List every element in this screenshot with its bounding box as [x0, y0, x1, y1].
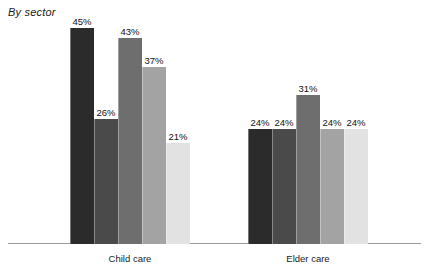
bar-slot: 31%: [296, 14, 320, 244]
bar-slot: 37%: [142, 14, 166, 244]
bar-value-label: 24%: [322, 118, 341, 130]
bar-slot: 24%: [272, 14, 296, 244]
x-tick-label-elder-care: Elder care: [248, 253, 368, 264]
bar-group-elder-care: 24% 24% 31% 24% 24%: [248, 14, 368, 244]
bar[interactable]: [118, 38, 142, 244]
bar-group-child-care: 45% 26% 43% 37% 21%: [70, 14, 190, 244]
bar-slot: 45%: [70, 14, 94, 244]
bar[interactable]: [94, 119, 118, 244]
bar[interactable]: [320, 129, 344, 244]
bar[interactable]: [70, 28, 94, 244]
x-tick-label-child-care: Child care: [70, 253, 190, 264]
bar[interactable]: [344, 129, 368, 244]
bar-slot: 26%: [94, 14, 118, 244]
bar-value-label: 43%: [120, 27, 139, 39]
bar-value-label: 24%: [250, 118, 269, 130]
bar[interactable]: [272, 129, 296, 244]
bar-slot: 24%: [320, 14, 344, 244]
bar-value-label: 45%: [72, 17, 91, 29]
bar[interactable]: [248, 129, 272, 244]
bar-value-label: 21%: [168, 132, 187, 144]
bar-slot: 21%: [166, 14, 190, 244]
bar-value-label: 26%: [96, 108, 115, 120]
bar-value-label: 24%: [346, 118, 365, 130]
bar-value-label: 37%: [144, 56, 163, 68]
chart-page: By sector 45% 26% 43% 37% 21%: [0, 0, 429, 270]
bar[interactable]: [166, 143, 190, 244]
bar-slot: 24%: [344, 14, 368, 244]
plot-area: 45% 26% 43% 37% 21% 24%: [0, 0, 429, 270]
bar[interactable]: [296, 95, 320, 244]
bar-slot: 43%: [118, 14, 142, 244]
bar-value-label: 24%: [274, 118, 293, 130]
bar-slot: 24%: [248, 14, 272, 244]
bar[interactable]: [142, 67, 166, 244]
bar-value-label: 31%: [298, 84, 317, 96]
